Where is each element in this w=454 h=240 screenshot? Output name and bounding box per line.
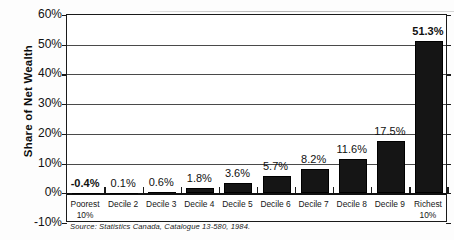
bar [72,193,100,194]
y-tick-label: 40% [16,67,62,79]
bar [186,188,214,193]
category-tick [257,187,258,193]
axis-tick-mark [446,193,451,194]
axis-tick-mark [446,164,451,165]
category-label-line: 10% [59,210,111,221]
y-tick-label: 60% [16,8,62,20]
category-label-line: Richest [402,199,454,210]
category-tick [409,187,410,193]
data-label: 51.3% [401,26,454,37]
y-tick-label: 50% [16,38,62,50]
wealth-distribution-bar-chart: Share of Net Wealth 60%50%40%30%20%10%0%… [0,0,454,240]
axis-tick-mark [446,74,451,75]
y-tick-label: -10% [16,216,62,228]
bar [110,193,138,194]
y-tick-label: 0% [16,186,62,198]
bar [148,192,176,194]
category-tick [447,187,448,193]
bar [339,159,367,193]
data-label: 8.2% [287,154,341,165]
data-label: 11.6% [325,144,379,155]
y-axis-tick-labels: 60%50%40%30%20%10%0%-10% [12,0,62,240]
bar [224,183,252,194]
category-tick [333,187,334,193]
data-label: 17.5% [363,126,417,137]
category-label-line: 10% [402,210,454,221]
plot-area [66,14,447,222]
bar [263,176,291,193]
axis-tick-mark [446,134,451,135]
category-tick [371,187,372,193]
category-label: Richest10% [402,199,454,220]
y-tick-label: 20% [16,127,62,139]
y-tick-label: 30% [16,97,62,109]
y-tick-label: 10% [16,157,62,169]
bar [415,41,443,193]
category-tick [181,187,182,193]
axis-tick-mark [446,45,451,46]
scan-artifact-line [150,11,454,12]
axis-tick-mark [446,15,451,16]
axis-tick-mark [446,104,451,105]
bar [301,169,329,193]
category-tick [295,187,296,193]
category-tick [219,187,220,193]
bar [377,141,405,193]
source-note: Source: Statistics Canada, Catalogue 13-… [70,222,250,231]
axis-tick-mark [62,223,67,224]
bar-series [67,15,446,221]
axis-tick-mark [446,223,451,224]
